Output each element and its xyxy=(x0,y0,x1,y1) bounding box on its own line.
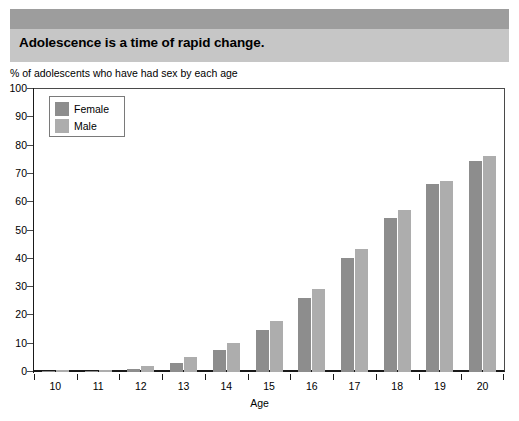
bar-male-age-14 xyxy=(227,343,240,372)
x-axis-tick-label: 20 xyxy=(477,380,489,392)
y-axis-tick-mark xyxy=(27,371,33,372)
legend-label-female: Female xyxy=(74,103,109,115)
y-axis-tick-label: 30 xyxy=(15,280,27,292)
bar-female-age-14 xyxy=(213,350,226,372)
y-axis-tick-label: 20 xyxy=(15,308,27,320)
header-banner: Adolescence is a time of rapid change. xyxy=(10,9,509,62)
x-axis-tick-label: 14 xyxy=(220,380,232,392)
x-axis-tick-label: 15 xyxy=(263,380,275,392)
x-axis-tick-label: 12 xyxy=(135,380,147,392)
chart-legend: FemaleMale xyxy=(49,96,125,137)
bar-female-age-17 xyxy=(341,258,354,372)
y-axis-tick-marks xyxy=(27,88,34,372)
y-axis-tick-label: 10 xyxy=(15,337,27,349)
y-axis-tick-label: 50 xyxy=(15,224,27,236)
y-axis-tick-label: 100 xyxy=(9,82,27,94)
bar-female-age-11 xyxy=(85,371,98,372)
bar-female-age-12 xyxy=(127,369,140,372)
y-axis-tick-label: 80 xyxy=(15,139,27,151)
y-axis-tick-label: 90 xyxy=(15,110,27,122)
banner-top-strip xyxy=(10,9,509,29)
legend-swatch-female xyxy=(55,102,69,116)
y-axis-tick-label: 40 xyxy=(15,252,27,264)
bar-female-age-20 xyxy=(469,161,482,372)
bar-male-age-12 xyxy=(141,366,154,372)
x-axis-tick-label: 13 xyxy=(178,380,190,392)
y-axis-tick-mark xyxy=(27,88,33,89)
legend-label-male: Male xyxy=(74,120,97,132)
y-axis-tick-mark xyxy=(27,145,33,146)
x-axis-tick-label: 11 xyxy=(93,380,104,392)
bar-male-age-11 xyxy=(99,370,112,372)
y-axis-tick-mark xyxy=(27,314,33,315)
y-axis-tick-mark xyxy=(27,201,33,202)
y-axis-tick-mark xyxy=(27,286,33,287)
y-axis-tick-mark xyxy=(27,258,33,259)
x-axis-title: Age xyxy=(0,397,519,409)
bar-female-age-18 xyxy=(384,218,397,372)
y-axis-tick-label: 60 xyxy=(15,195,27,207)
y-axis-tick-labels: 0102030405060708090100 xyxy=(0,88,27,372)
bar-male-age-16 xyxy=(312,289,325,372)
page-title: Adolescence is a time of rapid change. xyxy=(19,35,264,50)
bar-female-age-13 xyxy=(170,363,183,372)
x-axis-tick-label: 17 xyxy=(349,380,361,392)
bar-male-age-10 xyxy=(56,370,69,372)
bar-male-age-15 xyxy=(270,321,283,373)
y-axis-tick-mark xyxy=(27,116,33,117)
y-axis-tick-label: 70 xyxy=(15,167,27,179)
y-axis-tick-mark xyxy=(27,173,33,174)
legend-swatch-male xyxy=(55,119,69,133)
bar-male-age-17 xyxy=(355,249,368,372)
x-axis-tick-label: 10 xyxy=(50,380,62,392)
bar-female-age-15 xyxy=(256,330,269,372)
x-axis-tick-label: 19 xyxy=(434,380,446,392)
y-axis-tick-mark xyxy=(27,343,33,344)
x-axis-tick-labels: 1011121314151617181920 xyxy=(34,380,504,396)
bar-male-age-18 xyxy=(398,210,411,372)
y-axis-tick-mark xyxy=(27,230,33,231)
x-axis-tick-label: 16 xyxy=(306,380,318,392)
bar-female-age-19 xyxy=(426,184,439,372)
bar-female-age-16 xyxy=(298,298,311,372)
chart-subtitle: % of adolescents who have had sex by eac… xyxy=(10,67,238,79)
bar-male-age-13 xyxy=(184,357,197,372)
bar-female-age-10 xyxy=(42,371,55,372)
bar-male-age-20 xyxy=(483,156,496,372)
x-axis-tick-label: 18 xyxy=(391,380,403,392)
bar-male-age-19 xyxy=(440,181,453,372)
